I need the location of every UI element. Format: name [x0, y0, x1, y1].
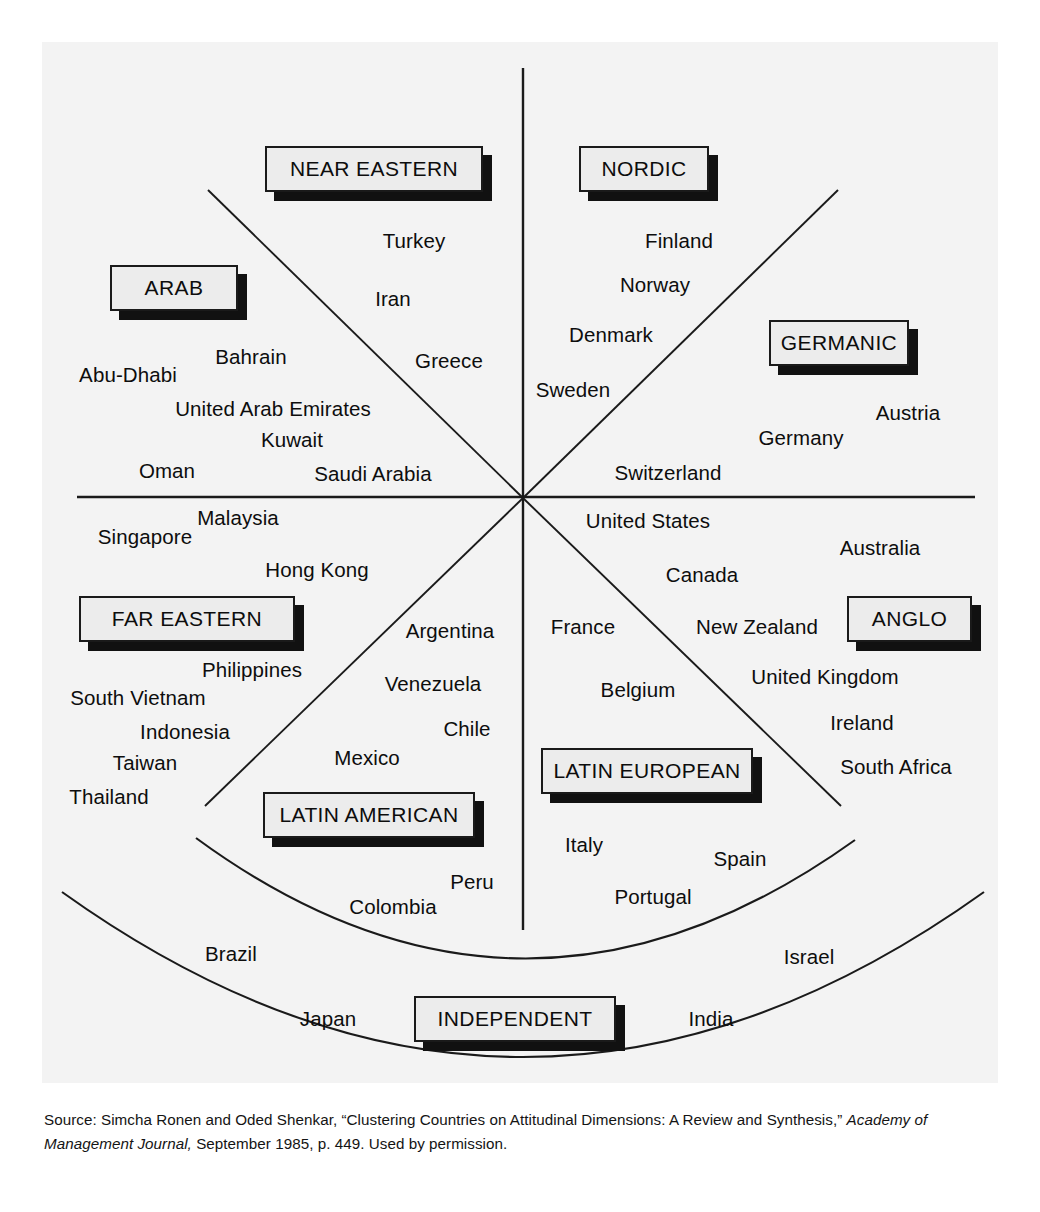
- country-israel: Israel: [784, 945, 835, 969]
- country-colombia: Colombia: [349, 895, 436, 919]
- country-switzerland: Switzerland: [614, 461, 721, 485]
- country-iran: Iran: [375, 287, 411, 311]
- cluster-label-far-eastern[interactable]: FAR EASTERN: [79, 596, 295, 642]
- cluster-label-latin-european-text: LATIN EUROPEAN: [553, 759, 740, 783]
- cluster-label-germanic[interactable]: GERMANIC: [769, 320, 909, 366]
- country-brazil: Brazil: [205, 942, 257, 966]
- country-bahrain: Bahrain: [215, 345, 286, 369]
- country-sweden: Sweden: [536, 378, 611, 402]
- country-philippines: Philippines: [202, 658, 302, 682]
- source-caption-part2: September 1985, p. 449. Used by permissi…: [192, 1135, 507, 1152]
- country-portugal: Portugal: [614, 885, 691, 909]
- cluster-label-latin-american-text: LATIN AMERICAN: [279, 803, 458, 827]
- cluster-label-arab-text: ARAB: [145, 276, 204, 300]
- country-south-vietnam: South Vietnam: [70, 686, 205, 710]
- cluster-label-anglo-text: ANGLO: [872, 607, 948, 631]
- country-south-africa: South Africa: [840, 755, 952, 779]
- cluster-label-germanic-text: GERMANIC: [781, 331, 897, 355]
- source-caption: Source: Simcha Ronen and Oded Shenkar, “…: [44, 1108, 996, 1155]
- cluster-label-independent[interactable]: INDEPENDENT: [414, 996, 616, 1042]
- country-canada: Canada: [666, 563, 738, 587]
- country-saudi-arabia: Saudi Arabia: [314, 462, 431, 486]
- country-hong-kong: Hong Kong: [265, 558, 368, 582]
- country-new-zealand: New Zealand: [696, 615, 818, 639]
- country-thailand: Thailand: [69, 785, 148, 809]
- country-oman: Oman: [139, 459, 195, 483]
- country-australia: Australia: [840, 536, 921, 560]
- country-denmark: Denmark: [569, 323, 653, 347]
- country-india: India: [689, 1007, 734, 1031]
- country-taiwan: Taiwan: [113, 751, 177, 775]
- country-japan: Japan: [300, 1007, 356, 1031]
- figure-root: NEAR EASTERN ARAB NORDIC GERMANIC FAR EA…: [0, 0, 1040, 1212]
- cluster-label-far-eastern-text: FAR EASTERN: [112, 607, 262, 631]
- cluster-label-latin-european[interactable]: LATIN EUROPEAN: [541, 748, 753, 794]
- cluster-label-nordic-text: NORDIC: [601, 157, 686, 181]
- country-spain: Spain: [714, 847, 767, 871]
- cluster-label-near-eastern[interactable]: NEAR EASTERN: [265, 146, 483, 192]
- country-mexico: Mexico: [334, 746, 400, 770]
- country-finland: Finland: [645, 229, 713, 253]
- country-turkey: Turkey: [383, 229, 446, 253]
- country-united-states: United States: [586, 509, 710, 533]
- country-chile: Chile: [443, 717, 490, 741]
- country-abu-dhabi: Abu-Dhabi: [79, 363, 177, 387]
- country-austria: Austria: [876, 401, 941, 425]
- country-belgium: Belgium: [601, 678, 676, 702]
- country-united-kingdom: United Kingdom: [751, 665, 898, 689]
- country-italy: Italy: [565, 833, 603, 857]
- cluster-label-anglo[interactable]: ANGLO: [847, 596, 972, 642]
- cluster-label-independent-text: INDEPENDENT: [438, 1007, 593, 1031]
- country-malaysia: Malaysia: [197, 506, 279, 530]
- country-united-arab-emirates: United Arab Emirates: [175, 397, 371, 421]
- country-peru: Peru: [450, 870, 494, 894]
- country-greece: Greece: [415, 349, 483, 373]
- country-cluster-diagram: NEAR EASTERN ARAB NORDIC GERMANIC FAR EA…: [0, 0, 1040, 1090]
- country-kuwait: Kuwait: [261, 428, 323, 452]
- country-singapore: Singapore: [98, 525, 192, 549]
- cluster-label-nordic[interactable]: NORDIC: [579, 146, 709, 192]
- country-norway: Norway: [620, 273, 690, 297]
- country-indonesia: Indonesia: [140, 720, 230, 744]
- country-france: France: [551, 615, 615, 639]
- country-ireland: Ireland: [830, 711, 893, 735]
- country-germany: Germany: [758, 426, 843, 450]
- country-venezuela: Venezuela: [385, 672, 482, 696]
- country-argentina: Argentina: [406, 619, 495, 643]
- divider-arab-near-eastern: [208, 190, 523, 498]
- cluster-label-arab[interactable]: ARAB: [110, 265, 238, 311]
- cluster-label-latin-american[interactable]: LATIN AMERICAN: [263, 792, 475, 838]
- source-caption-part1: Source: Simcha Ronen and Oded Shenkar, “…: [44, 1111, 847, 1128]
- cluster-label-near-eastern-text: NEAR EASTERN: [290, 157, 458, 181]
